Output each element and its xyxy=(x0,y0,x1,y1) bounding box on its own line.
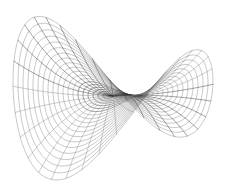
saddle-surface-figure xyxy=(0,0,226,191)
wireframe-surface-plot xyxy=(0,0,226,191)
